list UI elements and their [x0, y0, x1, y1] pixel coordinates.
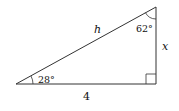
- right-angle-marker: [146, 74, 156, 84]
- angle-label-top: 62°: [136, 23, 153, 34]
- angle-arc-bottom-left: [31, 76, 33, 84]
- angle-label-bottom-left: 28°: [38, 74, 55, 85]
- vertical-side-label: x: [162, 40, 169, 53]
- hypotenuse-label: h: [94, 23, 101, 36]
- angle-arc-top: [145, 13, 156, 19]
- base-label: 4: [83, 90, 90, 103]
- triangle-diagram: h x 4 28° 62°: [0, 0, 179, 111]
- right-triangle: [16, 7, 156, 84]
